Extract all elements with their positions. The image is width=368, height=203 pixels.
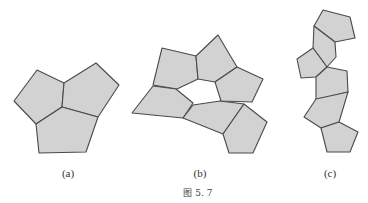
panel-b: (b) <box>132 35 267 180</box>
panel-label-c: (c) <box>324 167 337 180</box>
pentagon-tile <box>304 92 348 128</box>
pentagon-tile <box>153 48 198 89</box>
figure-caption: 图 5. 7 <box>183 188 212 198</box>
pentagon-tile <box>132 86 193 118</box>
panel-a: (a) <box>14 63 119 180</box>
panel-label-a: (a) <box>62 167 75 180</box>
figure-5-7: (a) (b) (c) 图 5. 7 <box>0 0 368 203</box>
pentagon-tile <box>321 122 358 152</box>
panel-c: (c) <box>297 10 358 180</box>
panel-label-b: (b) <box>194 167 207 180</box>
